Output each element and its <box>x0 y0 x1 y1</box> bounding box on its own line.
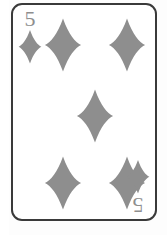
diamond-icon-index-bottom-right <box>126 160 150 194</box>
diamond-icon-pip-top-left <box>44 18 82 72</box>
corner-index-top-left: 5 <box>18 8 42 64</box>
rank-label-top-left: 5 <box>18 8 42 30</box>
playing-card-5-of-diamonds[interactable]: 5 <box>11 3 157 221</box>
rank-label-bottom-right: 5 <box>126 194 150 216</box>
corner-index-bottom-right: 5 <box>126 160 150 216</box>
diamond-icon-pip-bottom-left <box>44 156 82 210</box>
diamond-icon-index-top-left <box>18 30 42 64</box>
diamond-icon-pip-top-right <box>108 18 146 72</box>
page-background-edge <box>0 0 9 235</box>
card-face: 5 <box>13 5 155 219</box>
diamond-icon-pip-center <box>76 89 114 143</box>
playing-card-scene: 5 <box>0 0 167 235</box>
